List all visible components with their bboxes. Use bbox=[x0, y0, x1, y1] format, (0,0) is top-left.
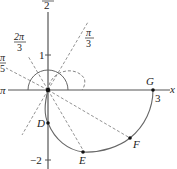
point-d-dot bbox=[46, 121, 50, 125]
angle-label-pi-over-5: π 5 bbox=[0, 52, 6, 74]
polar-diagram: 2 π x 1 −2 3 π 3 2π 3 π 5 D E F G bbox=[0, 0, 177, 169]
tick-label-neg2: −2 bbox=[30, 154, 42, 166]
ray-2pi-over-3-ext bbox=[48, 90, 83, 150]
svg-text:3: 3 bbox=[86, 38, 91, 49]
svg-text:3: 3 bbox=[17, 42, 22, 53]
ray-5pi-over-6-ext bbox=[48, 90, 130, 138]
svg-text:5: 5 bbox=[0, 63, 5, 74]
origin-point bbox=[46, 88, 51, 93]
point-d-label: D bbox=[36, 117, 45, 129]
svg-text:π: π bbox=[0, 52, 6, 63]
left-axis-label: π bbox=[0, 84, 6, 96]
svg-text:π: π bbox=[86, 27, 92, 38]
top-axis-label: 2 bbox=[44, 0, 50, 11]
tick-label-1: 1 bbox=[39, 49, 45, 61]
point-f-label: F bbox=[132, 138, 140, 150]
angle-label-2pi-over-3: 2π 3 bbox=[14, 31, 26, 53]
ray-pi-over-3 bbox=[48, 22, 88, 90]
svg-text:2π: 2π bbox=[14, 31, 25, 42]
point-f-dot bbox=[128, 136, 132, 140]
tick-label-3: 3 bbox=[155, 92, 161, 104]
right-axis-label: x bbox=[169, 83, 175, 95]
point-g-label: G bbox=[146, 75, 154, 87]
angle-label-pi-over-3: π 3 bbox=[85, 27, 94, 49]
point-e-label: E bbox=[78, 154, 86, 166]
